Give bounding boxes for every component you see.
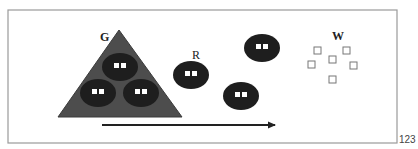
cell-ellipse — [80, 79, 116, 107]
cell-free-lower — [223, 82, 259, 110]
label-w: W — [332, 29, 344, 43]
open-square-icon — [343, 47, 350, 54]
figure-number: 123 — [399, 134, 416, 145]
cell-window-icon — [235, 92, 240, 97]
cell-window-icon — [114, 63, 119, 68]
cell-ellipse — [173, 61, 209, 89]
open-square-icon — [329, 56, 336, 63]
cell-window-icon — [192, 71, 197, 76]
cell-window-icon — [99, 89, 104, 94]
cell-window-icon — [92, 89, 97, 94]
cell-window-icon — [142, 89, 147, 94]
cell-g-bottom-right — [123, 79, 159, 107]
cell-g-top — [102, 53, 138, 81]
open-square-icon — [308, 61, 315, 68]
cell-window-icon — [256, 44, 261, 49]
cell-r-1 — [173, 61, 209, 89]
label-g: G — [100, 30, 109, 44]
cell-ellipse — [244, 34, 280, 62]
cell-ellipse — [123, 79, 159, 107]
open-square-icon — [329, 76, 336, 83]
cell-window-icon — [185, 71, 190, 76]
cell-window-icon — [121, 63, 126, 68]
label-r: R — [192, 48, 200, 62]
diagram-canvas: G R W — [0, 0, 418, 149]
cell-window-icon — [242, 92, 247, 97]
open-square-icon — [314, 47, 321, 54]
cell-window-icon — [263, 44, 268, 49]
cell-window-icon — [135, 89, 140, 94]
cell-ellipse — [102, 53, 138, 81]
cell-g-bottom-left — [80, 79, 116, 107]
cell-ellipse — [223, 82, 259, 110]
open-square-icon — [350, 62, 357, 69]
cell-free-upper — [244, 34, 280, 62]
w-squares-layer — [308, 47, 357, 83]
